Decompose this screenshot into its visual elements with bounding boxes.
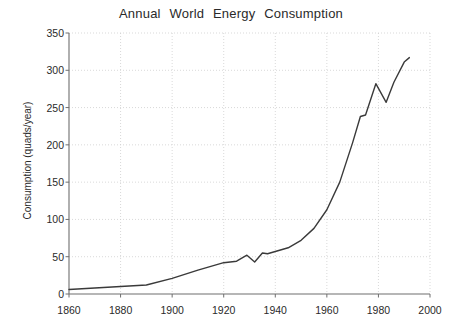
plot-area — [0, 0, 462, 333]
x-tick-label: 1980 — [367, 304, 390, 316]
x-tick-label: 1940 — [264, 304, 287, 316]
x-tick-label: 2000 — [418, 304, 441, 316]
energy-consumption-chart: Annual World Energy Consumption Consumpt… — [0, 0, 462, 333]
data-series-group — [69, 58, 409, 290]
x-tick-label: 1920 — [212, 304, 235, 316]
y-tick-label: 300 — [24, 65, 64, 76]
y-tick-label: 100 — [24, 214, 64, 225]
y-tick-label: 50 — [24, 252, 64, 263]
x-tick-label: 1880 — [109, 304, 132, 316]
x-tick-label: 1960 — [315, 304, 338, 316]
y-tick-label: 150 — [24, 177, 64, 188]
grid-lines — [69, 33, 430, 294]
x-tick-label: 1860 — [57, 304, 80, 316]
y-tick-label: 350 — [24, 28, 64, 39]
x-tick-label: 1900 — [160, 304, 183, 316]
y-tick-label: 0 — [24, 289, 64, 300]
axis-lines — [69, 33, 430, 294]
y-tick-label: 250 — [24, 103, 64, 114]
y-tick-label: 200 — [24, 140, 64, 151]
